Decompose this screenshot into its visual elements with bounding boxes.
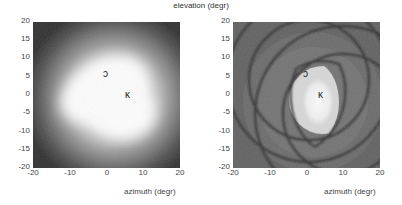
y-tick: 5 [210, 71, 230, 80]
x-tick: 20 [168, 168, 192, 177]
y-tick: 10 [210, 52, 230, 61]
x-tick: 0 [95, 168, 119, 177]
y-tick: 15 [10, 34, 30, 43]
x-tick: 10 [131, 168, 155, 177]
x-tick: 0 [295, 168, 319, 177]
x-tick: -20 [221, 168, 245, 177]
marker-a-icon: ↄ [303, 68, 308, 79]
y-tick: 10 [10, 52, 30, 61]
x-tick: 20 [368, 168, 392, 177]
y-tick: 5 [10, 71, 30, 80]
y-tick: -15 [210, 144, 230, 153]
left-heatmap: ↄ κ [33, 22, 180, 168]
y-tick: 0 [210, 89, 230, 98]
y-tick: -10 [210, 126, 230, 135]
y-tick: -10 [10, 126, 30, 135]
x-tick: -20 [21, 168, 45, 177]
marker-b-icon: κ [318, 89, 323, 100]
x-tick: 10 [331, 168, 355, 177]
y-tick: 0 [10, 89, 30, 98]
figure-top-label: elevation (degr) [0, 1, 402, 10]
left-x-axis-label: azimuth (degr) [124, 187, 176, 196]
y-tick: -5 [10, 107, 30, 116]
right-heatmap: ↄ κ [233, 22, 380, 168]
x-tick: -10 [258, 168, 282, 177]
y-tick: 20 [210, 16, 230, 25]
marker-a-icon: ↄ [103, 68, 108, 79]
right-x-axis-label: azimuth (degr) [324, 187, 376, 196]
marker-b-icon: κ [125, 89, 130, 100]
y-tick: 20 [10, 16, 30, 25]
y-tick: -15 [10, 144, 30, 153]
x-tick: -10 [58, 168, 82, 177]
y-tick: -5 [210, 107, 230, 116]
y-tick: 15 [210, 34, 230, 43]
